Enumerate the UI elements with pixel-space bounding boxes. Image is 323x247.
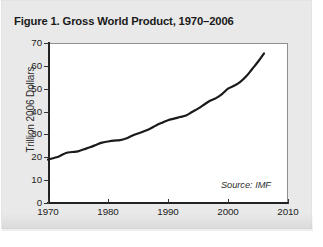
figure-screenshot: Figure 1. Gross World Product, 1970–2006… bbox=[0, 0, 323, 247]
x-tick-label: 2010 bbox=[268, 206, 308, 217]
x-tick-label: 1990 bbox=[148, 206, 188, 217]
series-line-gross-world-product bbox=[48, 53, 264, 159]
series-line-chart bbox=[48, 43, 288, 203]
y-tick-label-wrap: 0 bbox=[18, 203, 42, 204]
x-tick-label: 1970 bbox=[28, 206, 68, 217]
page-title: Figure 1. Gross World Product, 1970–2006 bbox=[14, 14, 234, 27]
x-tick-label: 1980 bbox=[88, 206, 128, 217]
source-note: Source: IMF bbox=[221, 180, 271, 190]
y-axis-title: Trillion 2006 Dollars bbox=[25, 35, 36, 185]
x-tick-label: 2000 bbox=[208, 206, 248, 217]
x-tick-mark bbox=[288, 199, 289, 204]
